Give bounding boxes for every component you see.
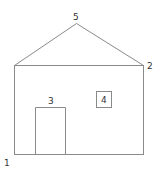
label-roof-peak: 5: [73, 12, 79, 22]
label-window: 4: [101, 95, 107, 105]
door: [36, 108, 66, 155]
label-door: 3: [48, 96, 54, 106]
label-corner-top-right: 2: [147, 61, 153, 71]
house-body: [15, 66, 144, 155]
house-diagram: 5 2 3 4 1: [0, 0, 163, 176]
label-corner-bottom-left: 1: [4, 158, 10, 168]
roof: [15, 24, 144, 66]
